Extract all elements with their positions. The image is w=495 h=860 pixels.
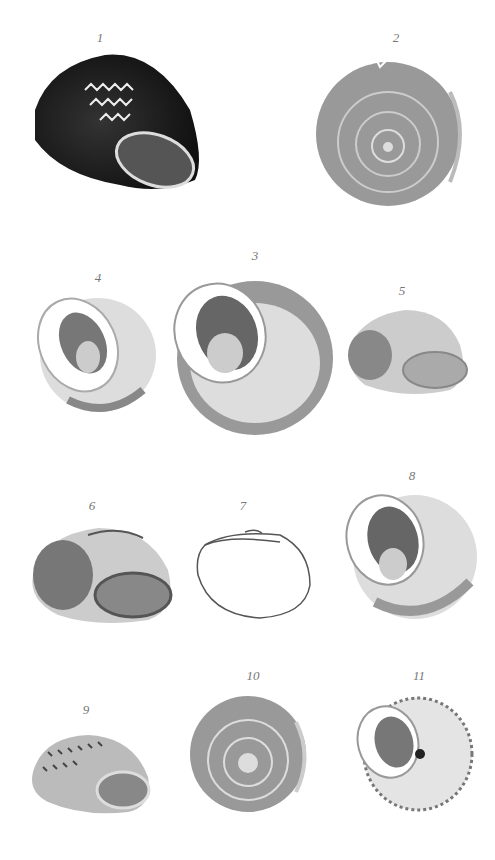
figure-label-3: 3: [252, 248, 259, 264]
figure-label-4: 4: [95, 270, 102, 286]
shell-figure-10: [188, 692, 318, 817]
shell-figure-6: [28, 520, 178, 630]
shell-figure-2: [310, 52, 475, 212]
shell-figure-1: [30, 50, 205, 200]
shell-figure-7: [190, 520, 315, 625]
figure-label-7: 7: [240, 498, 247, 514]
figure-label-8: 8: [409, 468, 416, 484]
shell-figure-5: [345, 305, 475, 405]
figure-label-10: 10: [247, 668, 260, 684]
figure-label-1: 1: [97, 30, 104, 46]
figure-label-6: 6: [89, 498, 96, 514]
figure-label-2: 2: [393, 30, 400, 46]
figure-label-5: 5: [399, 283, 406, 299]
figure-label-9: 9: [83, 702, 90, 718]
shell-figure-3: [165, 278, 335, 438]
shell-figure-11: [350, 692, 475, 817]
shell-figure-4: [28, 295, 158, 420]
figure-label-11: 11: [413, 668, 425, 684]
shell-figure-8: [335, 492, 480, 622]
shell-figure-9: [28, 732, 153, 817]
